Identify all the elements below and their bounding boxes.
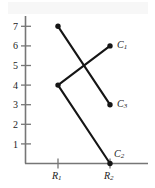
data-point-c1 — [107, 43, 112, 48]
y-tick-label-7: 7 — [6, 22, 18, 32]
series-label-c3-text: C — [117, 98, 124, 109]
x-tick-label-r1: R1 — [52, 171, 62, 182]
x-tick-label-r2-subscript: 2 — [110, 174, 114, 182]
series-line-c1 — [58, 46, 110, 85]
data-point-r1-7 — [55, 24, 60, 29]
series-label-c3-subscript: 3 — [124, 102, 128, 110]
data-point-c3 — [107, 102, 112, 107]
y-tick-label-2: 2 — [6, 120, 18, 130]
y-tick-label-5: 5 — [6, 61, 18, 71]
data-point-r1-4 — [55, 82, 60, 87]
series-label-c1-subscript: 1 — [124, 43, 128, 51]
series-label-c2: C2 — [114, 149, 124, 160]
plot-canvas — [0, 0, 155, 188]
y-tick-label-6: 6 — [6, 41, 18, 51]
series-label-c3: C3 — [117, 99, 127, 110]
series-label-c2-subscript: 2 — [121, 152, 125, 160]
series-label-c1-text: C — [117, 39, 124, 50]
x-tick-label-r1-subscript: 1 — [58, 174, 62, 182]
interaction-plot-figure: 1 2 3 4 5 6 7 R1 R2 C1 C3 C2 — [0, 0, 155, 188]
y-tick-label-3: 3 — [6, 100, 18, 110]
series-label-c2-text: C — [114, 148, 121, 159]
data-point-c2 — [107, 161, 112, 166]
series-line-c2 — [58, 85, 110, 163]
x-tick-label-r2: R2 — [104, 171, 114, 182]
y-tick-label-1: 1 — [6, 140, 18, 150]
series-label-c1: C1 — [117, 40, 127, 51]
y-tick-label-4: 4 — [6, 81, 18, 91]
